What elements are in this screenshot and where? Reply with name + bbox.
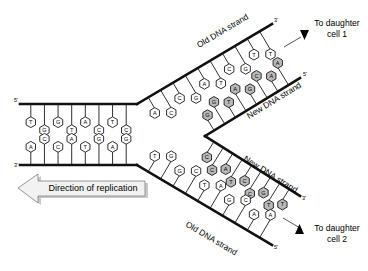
to-daughter-cell-2-line1: To daughter: [314, 223, 360, 233]
nucleotide-stem: [271, 81, 278, 92]
end-label-old-bottom-right: 5': [274, 244, 278, 250]
parent-top-strand-nucleotides: TGGTACTC: [26, 104, 131, 136]
nucleotide-stem: [214, 106, 225, 124]
nucleotide-stem: [235, 93, 246, 111]
nucleotide-stem: [161, 161, 172, 179]
nucleotide-stem: [223, 204, 230, 215]
nucleotide-stem: [278, 67, 289, 85]
nucleotide-base-A: [216, 180, 225, 191]
nucleotide-base-G: [53, 117, 62, 128]
to-daughter-cell-1-annotation: To daughter cell 1: [284, 18, 360, 47]
nucleotide-base-C: [191, 166, 200, 177]
nucleotide-base-T: [278, 199, 287, 210]
nucleotide-stem: [235, 46, 246, 64]
nucleotide-stem: [245, 166, 252, 177]
nucleotide-stem: [185, 75, 196, 93]
nucleotide-base-C: [175, 93, 184, 104]
nucleotide-base-C: [207, 165, 216, 176]
nucleotide-base-G: [225, 194, 234, 205]
end-label-old-top-right: 3': [274, 17, 278, 23]
nucleotide-stem: [207, 142, 214, 153]
daughter-cell-2-leader: [283, 218, 300, 228]
nucleotide-base-C: [241, 195, 250, 206]
nucleotide-base-T: [266, 49, 275, 60]
nucleotide-stem: [198, 190, 205, 201]
nucleotide-stem: [185, 175, 196, 193]
nucleotide-base-C: [225, 64, 234, 75]
nucleotide-stem: [247, 219, 254, 230]
nucleotide-base-G: [203, 110, 212, 121]
nucleotide-base-G: [122, 133, 131, 144]
nucleotide-base-C: [53, 141, 62, 152]
direction-of-replication-arrow: Direction of replication: [18, 174, 148, 205]
nucleotide-stem: [250, 94, 257, 105]
nucleotide-stem: [226, 154, 233, 165]
nucleotide-base-G: [175, 165, 184, 176]
nucleotide-stem: [231, 160, 242, 178]
nucleotide-base-G: [167, 151, 176, 162]
nucleotide-base-C: [40, 133, 49, 144]
dna-replication-figure: 5' 3' 3' 5' 3' 5' Old DNA strand New DNA…: [0, 0, 368, 271]
nucleotide-stem: [256, 80, 267, 98]
nucleotide-base-G: [209, 97, 218, 108]
nucleotide-base-G: [241, 63, 250, 74]
nucleotide-stem: [210, 190, 221, 208]
nucleotide-base-C: [167, 107, 176, 118]
to-daughter-cell-2-line2: cell 2: [327, 234, 347, 244]
nucleotide-base-C: [252, 71, 261, 82]
nucleotide-stem: [250, 171, 261, 189]
nucleotide-base-A: [67, 133, 76, 144]
nucleotide-stem: [173, 83, 180, 94]
nucleotide-base-C: [240, 176, 249, 187]
to-daughter-cell-2-annotation: To daughter cell 2: [283, 218, 360, 244]
end-label-new-top-right: 5': [303, 71, 307, 77]
nucleotide-stem: [223, 54, 230, 65]
end-label-parent-bottom-left: 3': [14, 162, 18, 168]
nucleotide-base-A: [200, 78, 209, 89]
direction-of-replication-label: Direction of replication: [48, 183, 137, 193]
label-old-dna-strand-top: Old DNA strand: [195, 11, 250, 49]
nucleotide-base-T: [264, 200, 273, 211]
nucleotide-base-A: [150, 108, 159, 119]
nucleotide-stem: [235, 205, 246, 223]
nucleotide-base-C: [202, 152, 211, 163]
nucleotide-base-A: [81, 117, 90, 128]
nucleotide-stem: [210, 61, 221, 79]
end-label-parent-top-left: 5': [14, 97, 18, 103]
nucleotide-stem: [161, 90, 172, 108]
nucleotide-base-T: [226, 176, 235, 187]
nucleotide-stem: [264, 177, 271, 188]
end-label-new-bottom-right: 3': [302, 195, 306, 201]
nucleotide-base-G: [94, 133, 103, 144]
nucleotide-stem: [282, 189, 289, 200]
nucleotide-base-T: [81, 141, 90, 152]
nucleotide-base-A: [267, 71, 276, 82]
nucleotide-stem: [229, 107, 236, 118]
nucleotide-base-G: [259, 187, 268, 198]
nucleotide-base-T: [108, 117, 117, 128]
nucleotide-stem: [198, 68, 205, 79]
nucleotide-base-T: [150, 151, 159, 162]
nucleotide-base-A: [26, 141, 35, 152]
nucleotide-base-A: [249, 209, 258, 220]
nucleotide-stem: [148, 160, 155, 171]
nucleotide-base-T: [249, 49, 258, 60]
nucleotide-base-T: [200, 180, 209, 191]
nucleotide-stem: [260, 32, 271, 50]
figure-svg: 5' 3' 3' 5' 3' 5' Old DNA strand New DNA…: [0, 0, 368, 271]
nucleotide-stem: [208, 120, 215, 131]
daughter-cell-1-leader: [284, 37, 301, 47]
nucleotide-stem: [260, 219, 271, 237]
nucleotide-base-G: [191, 93, 200, 104]
nucleotide-stem: [148, 97, 155, 108]
label-old-dna-strand-bottom: Old DNA strand: [184, 219, 239, 257]
nucleotide-stem: [173, 175, 180, 186]
nucleotide-base-G: [245, 84, 254, 95]
nucleotide-base-T: [26, 117, 35, 128]
nucleotide-layer: TGGTACTCACCATGAGACCGATCGTTGGTAGCAACCATCC…: [26, 32, 289, 238]
nucleotide-stem: [212, 148, 223, 166]
nucleotide-base-A: [108, 141, 117, 152]
nucleotide-base-A: [266, 209, 275, 220]
nucleotide-base-T: [216, 78, 225, 89]
nucleotide-stem: [269, 183, 280, 201]
